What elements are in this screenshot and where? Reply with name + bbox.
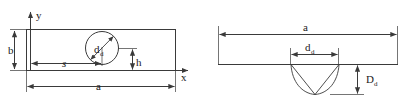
b-label: b xyxy=(8,44,14,56)
Dd-label: D xyxy=(366,73,374,85)
s-label: s xyxy=(62,57,66,69)
diagram-canvas: y x b s h d d a a d d D d xyxy=(0,0,414,105)
a-label-right-view: a xyxy=(303,21,308,33)
x-axis-label: x xyxy=(181,71,187,83)
dd-subscript-right-view: d xyxy=(311,48,315,56)
dent-geometry-figure: y x b s h d d a a d d D d xyxy=(0,0,414,105)
dd-subscript-left-view: d xyxy=(100,50,104,58)
y-axis-label: y xyxy=(36,9,42,21)
dent-profile-v xyxy=(291,65,339,95)
a-label-left-view: a xyxy=(96,80,101,92)
h-label: h xyxy=(136,56,142,68)
Dd-subscript: d xyxy=(374,80,378,88)
